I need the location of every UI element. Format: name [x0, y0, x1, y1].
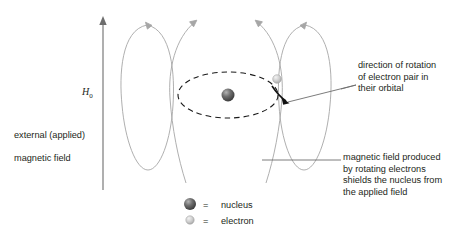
field-line-outer-left	[121, 22, 174, 170]
field-line-inner-right	[255, 20, 282, 183]
legend-equals-nucleus: =	[203, 200, 208, 210]
field-line-group	[121, 20, 331, 183]
field-line-inner-left	[170, 20, 197, 183]
external-field-label: external (applied) magnetic field	[14, 118, 124, 176]
field-line-outer-right	[278, 22, 331, 170]
h0-symbol: H0	[82, 86, 93, 100]
electron-sphere	[273, 75, 282, 84]
external-field-label-line2: magnetic field	[14, 153, 124, 165]
shielding-diagram: H0 external (applied) magnetic field dir…	[0, 0, 473, 235]
shielding-annotation: magnetic field produced by rotating elec…	[343, 152, 471, 198]
leader-line-rotation-tail	[341, 85, 356, 89]
legend-electron-marker	[186, 216, 194, 224]
legend-label-nucleus: nucleus	[221, 200, 253, 210]
legend-nucleus-marker	[184, 198, 196, 210]
legend-label-electron: electron	[221, 216, 254, 226]
rotation-annotation: direction of rotation of electron pair i…	[358, 60, 470, 95]
h0-symbol-subscript: 0	[89, 92, 93, 100]
external-field-label-line1: external (applied)	[14, 130, 124, 142]
legend-equals-electron: =	[203, 216, 208, 226]
nucleus-sphere	[222, 89, 235, 102]
rotation-direction-arrow	[272, 86, 290, 105]
